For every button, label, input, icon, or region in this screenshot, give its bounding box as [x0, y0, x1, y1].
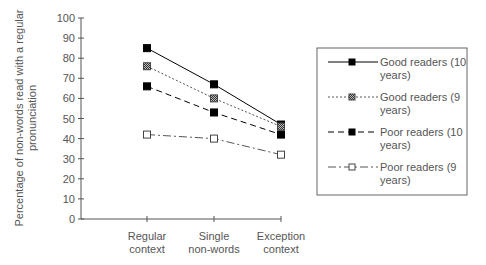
data-point-marker [349, 129, 355, 135]
data-point-marker [278, 123, 285, 130]
data-point-marker [211, 81, 218, 88]
legend-label: Good readers (10 [380, 56, 466, 68]
data-point-marker [349, 59, 355, 65]
x-category-label: Exception [257, 230, 305, 242]
data-point-marker [144, 83, 151, 90]
legend-label: Good readers (9 [380, 91, 460, 103]
svg-text:Percentage of non-words read w: Percentage of non-words read with a regu… [13, 9, 25, 226]
legend-label: years) [380, 104, 411, 116]
y-tick-label: 30 [63, 153, 75, 165]
data-point-marker [278, 151, 285, 158]
x-category-label: context [263, 243, 298, 255]
y-tick-label: 40 [63, 133, 75, 145]
y-axis-title: Percentage of non-words read with a regu… [13, 9, 38, 226]
y-tick-label: 100 [57, 12, 75, 24]
svg-text:pronunciation: pronunciation [26, 85, 38, 151]
legend-label: Poor readers (10 [380, 126, 463, 138]
y-tick-label: 0 [69, 213, 75, 225]
data-point-marker [278, 131, 285, 138]
x-axis: RegularcontextSinglenon-wordsExceptionco… [81, 216, 305, 255]
y-tick-label: 10 [63, 193, 75, 205]
data-point-marker [211, 135, 218, 142]
data-point-marker [144, 131, 151, 138]
data-point-marker [144, 45, 151, 52]
x-category-label: Single [199, 230, 230, 242]
y-tick-label: 20 [63, 173, 75, 185]
y-tick-label: 50 [63, 113, 75, 125]
legend-label: years) [380, 174, 411, 186]
y-tick-label: 60 [63, 92, 75, 104]
data-series [144, 45, 285, 159]
y-axis: 0102030405060708090100 [57, 12, 84, 225]
data-point-marker [211, 109, 218, 116]
legend: Good readers (10years)Good readers (9yea… [317, 48, 467, 195]
x-category-label: context [129, 243, 164, 255]
x-category-label: non-words [188, 243, 240, 255]
y-tick-label: 80 [63, 52, 75, 64]
data-point-marker [211, 95, 218, 102]
y-tick-label: 70 [63, 72, 75, 84]
legend-label: years) [380, 69, 411, 81]
data-point-marker [349, 94, 355, 100]
y-tick-label: 90 [63, 32, 75, 44]
data-point-marker [144, 63, 151, 70]
data-point-marker [349, 164, 355, 170]
legend-label: years) [380, 139, 411, 151]
line-chart: 0102030405060708090100 RegularcontextSin… [0, 0, 486, 265]
legend-label: Poor readers (9 [380, 161, 456, 173]
x-category-label: Regular [128, 230, 167, 242]
